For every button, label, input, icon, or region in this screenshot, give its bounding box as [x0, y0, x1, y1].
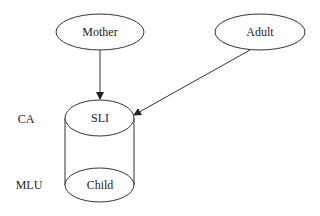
side-label-ca: CA	[18, 112, 35, 126]
node-mother: Mother	[56, 14, 144, 50]
edge-adult-sli	[134, 50, 250, 115]
side-label-mlu: MLU	[16, 178, 43, 192]
node-sli-label: SLI	[91, 111, 109, 125]
node-mother-label: Mother	[82, 25, 117, 39]
node-child-label: Child	[87, 178, 114, 192]
diagram-canvas: Mother Adult SLI Child CA MLU	[0, 0, 320, 216]
node-adult: Adult	[215, 14, 305, 50]
node-adult-label: Adult	[246, 25, 274, 39]
cylinder-sli-child: SLI Child	[65, 100, 134, 202]
